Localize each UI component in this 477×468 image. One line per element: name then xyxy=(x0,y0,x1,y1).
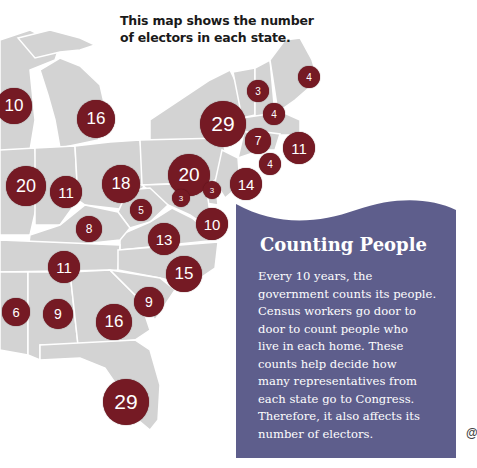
elector-bubble-ohio: 18 xyxy=(102,165,140,203)
caption-line-2: of electors in each state. xyxy=(120,29,314,46)
elector-bubble-connecticut: 7 xyxy=(245,128,271,154)
card-line: Census workers go door to xyxy=(258,303,458,321)
map-caption: This map shows the number of electors in… xyxy=(120,12,314,46)
spiral-icon: @ xyxy=(466,426,477,440)
card-line: each state go to Congress. xyxy=(258,391,458,409)
elector-bubble-maryland: 10 xyxy=(196,208,228,240)
elector-bubble-west-virginia: 5 xyxy=(130,199,152,221)
card-title: Counting People xyxy=(260,234,427,255)
elector-bubble-north-carolina: 15 xyxy=(166,256,202,292)
elector-bubble-massachusetts: 11 xyxy=(283,132,315,164)
card-line: live in each home. These xyxy=(258,338,458,356)
elector-bubble-rhode-island: 4 xyxy=(259,153,281,175)
elector-bubble-alabama: 9 xyxy=(43,299,73,329)
card-line: many representatives from xyxy=(258,373,458,391)
elector-bubble-new-hampshire: 4 xyxy=(263,103,285,125)
elector-bubble-south-carolina: 9 xyxy=(134,287,164,317)
elector-bubble-delaware: 3 xyxy=(203,181,221,199)
elector-bubble-michigan: 16 xyxy=(77,100,115,138)
card-line: counts help decide how xyxy=(258,356,458,374)
elector-bubble-tennessee: 11 xyxy=(48,251,80,283)
elector-bubble-virginia: 13 xyxy=(148,223,180,255)
elector-bubble-new-york: 29 xyxy=(200,101,246,147)
elector-bubble-florida: 29 xyxy=(103,379,149,425)
card-body: Every 10 years, the government counts it… xyxy=(258,268,458,443)
elector-bubble-vermont: 3 xyxy=(247,80,269,102)
elector-bubble-maine: 4 xyxy=(298,66,320,88)
elector-bubble-georgia: 16 xyxy=(96,304,132,340)
elector-bubble-kentucky: 8 xyxy=(76,216,102,242)
counting-people-card: Counting People Every 10 years, the gove… xyxy=(236,196,456,458)
elector-bubble-indiana: 11 xyxy=(50,176,82,208)
caption-line-1: This map shows the number xyxy=(120,12,314,29)
elector-bubble-illinois: 20 xyxy=(6,166,46,206)
card-line: Therefore, it also affects its xyxy=(258,408,458,426)
elector-bubble-mississippi: 6 xyxy=(2,298,30,326)
card-line: Every 10 years, the xyxy=(258,268,458,286)
card-line: number of electors. xyxy=(258,426,458,444)
card-line: door to count people who xyxy=(258,321,458,339)
card-line: government counts its people. xyxy=(258,286,458,304)
elector-bubble-district-of-columbia: 3 xyxy=(172,189,190,207)
